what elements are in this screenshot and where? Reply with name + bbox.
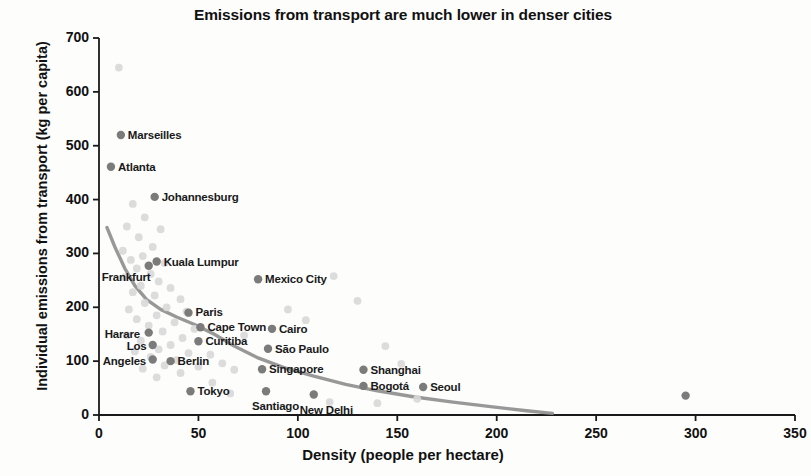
y-tick-600: 600 (33, 83, 89, 99)
data-point-angeles (148, 355, 156, 363)
data-point-johannesburg (150, 193, 158, 201)
point-label-harare: Harare (105, 328, 140, 340)
point-label-angeles: Angeles (103, 355, 146, 367)
point-label-cairo: Cairo (279, 323, 307, 335)
point-label-frankfurt: Frankfurt (102, 271, 151, 283)
data-point-tokyo (186, 387, 194, 395)
data-point-cape-town (196, 323, 204, 331)
point-label-new-delhi: New Delhi (300, 404, 353, 416)
x-tick-50: 50 (168, 425, 228, 441)
y-tick-700: 700 (33, 29, 89, 45)
data-point-marseilles (117, 131, 125, 139)
point-label-mexico-city: Mexico City (265, 273, 327, 285)
point-label-kuala-lumpur: Kuala Lumpur (164, 256, 239, 268)
data-point-singapore (258, 365, 266, 373)
point-label-são-paulo: São Paulo (275, 343, 329, 355)
x-tick-150: 150 (367, 425, 427, 441)
data-point-berlin (166, 357, 174, 365)
x-tick-350: 350 (765, 425, 811, 441)
y-tick-100: 100 (33, 352, 89, 368)
y-tick-500: 500 (33, 137, 89, 153)
y-tick-300: 300 (33, 244, 89, 260)
point-label-shanghai: Shanghai (370, 364, 420, 376)
point-label-tokyo: Tokyo (197, 385, 229, 397)
y-tick-0: 0 (33, 406, 89, 422)
point-label-johannesburg: Johannesburg (162, 191, 239, 203)
x-tick-100: 100 (268, 425, 328, 441)
x-tick-200: 200 (467, 425, 527, 441)
data-point-bogotá (359, 382, 367, 390)
data-point-new-delhi (310, 390, 318, 398)
point-label-bogotá: Bogotá (370, 380, 408, 392)
data-point-kuala-lumpur (152, 257, 160, 265)
x-tick-0: 0 (69, 425, 129, 441)
point-label-marseilles: Marseilles (128, 129, 182, 141)
point-label-santiago: Santiago (252, 400, 299, 412)
x-tick-300: 300 (666, 425, 726, 441)
point-label-paris: Paris (195, 306, 222, 318)
data-point-paris (184, 308, 192, 316)
data-point-são-paulo (264, 345, 272, 353)
point-label-atlanta: Atlanta (118, 161, 156, 173)
point-label-curitiba: Curitiba (205, 335, 247, 347)
background-data-points (115, 64, 421, 407)
data-point-atlanta (107, 163, 115, 171)
data-point-santiago (262, 387, 270, 395)
point-label-cape-town: Cape Town (207, 321, 266, 333)
data-point-harare (145, 328, 153, 336)
data-point-cairo (268, 325, 276, 333)
y-tick-400: 400 (33, 191, 89, 207)
y-tick-200: 200 (33, 298, 89, 314)
data-point-los (148, 341, 156, 349)
point-label-berlin: Berlin (178, 355, 209, 367)
point-label-los: Los (127, 340, 147, 352)
data-point-curitiba (194, 337, 202, 345)
data-point-frankfurt (145, 262, 153, 270)
data-point-mexico-city (254, 275, 262, 283)
point-label-singapore: Singapore (269, 363, 323, 375)
data-point-seoul (419, 383, 427, 391)
x-tick-250: 250 (566, 425, 626, 441)
point-label-seoul: Seoul (430, 381, 460, 393)
data-point-shanghai (359, 366, 367, 374)
